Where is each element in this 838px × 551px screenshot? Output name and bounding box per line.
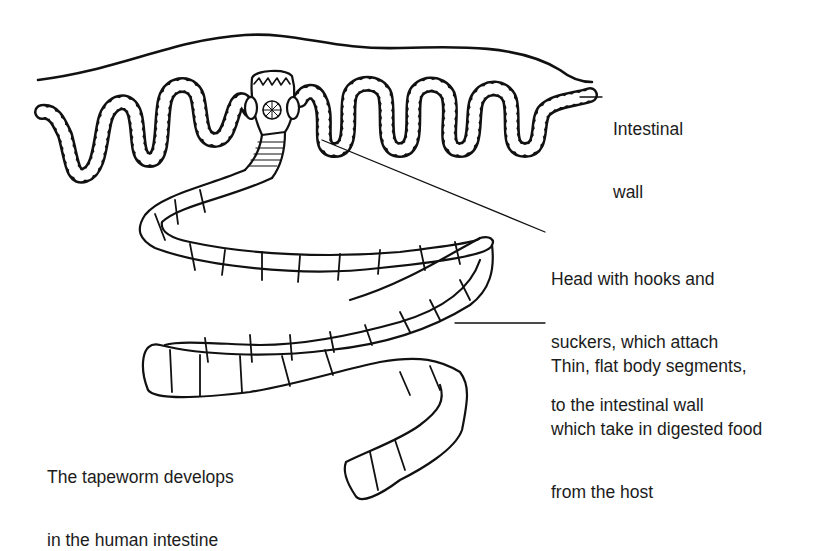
- label-intestinal-wall: Intestinal wall: [613, 77, 683, 224]
- leader-head: [322, 140, 545, 232]
- label-body-segments: Thin, flat body segments, which take in …: [551, 314, 762, 524]
- caption: The tapeworm develops in the human intes…: [47, 425, 234, 551]
- tapeworm-head: [245, 71, 299, 178]
- intestinal-wall-line: [38, 35, 592, 82]
